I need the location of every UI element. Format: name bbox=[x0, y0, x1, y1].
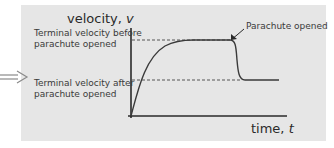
velocity-curve bbox=[131, 40, 279, 116]
y-axis-label: velocity, v bbox=[67, 11, 134, 26]
pointer-arrow-icon bbox=[0, 71, 27, 83]
parachute-opened-label: Parachute opened bbox=[246, 21, 328, 32]
terminal-velocity-before-label: Terminal velocity before parachute opene… bbox=[34, 28, 142, 50]
parachute-opened-arrow-icon bbox=[231, 29, 244, 40]
terminal-velocity-after-label: Terminal velocity after parachute opened bbox=[34, 78, 134, 100]
x-axis-label: time, t bbox=[251, 121, 294, 136]
